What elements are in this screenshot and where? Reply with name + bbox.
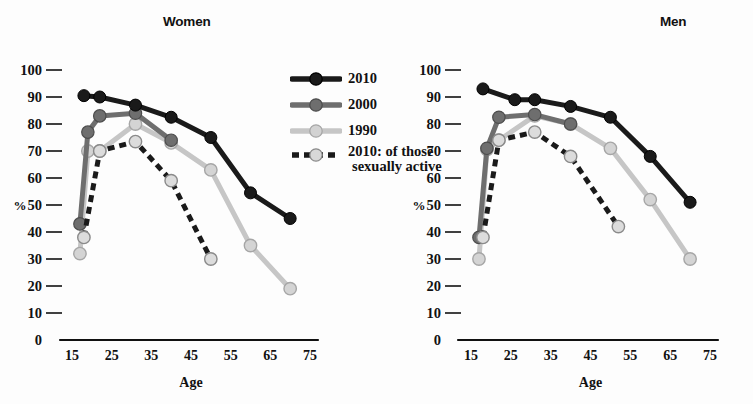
y-tick-label: 50 [28,197,43,213]
x-tick-label: 45 [184,348,198,363]
y-tick-label: 20 [427,278,442,294]
y-tick-label: 90 [427,89,442,105]
y-tick-label: 0 [434,332,441,348]
series-2000 [473,108,577,243]
plot-area-men: 1009080706050403020100%15253545556575Age [400,0,753,404]
legend-label-1990: 1990 [348,123,377,138]
y-tick-label: 60 [28,170,43,186]
y-tick-label: 50 [427,197,442,213]
y-tick-label: 40 [427,224,442,240]
x-axis-caption: Age [179,375,202,390]
y-tick-label: 20 [28,278,43,294]
legend-swatch-2000 [290,97,342,113]
legend-label-2010: 2010 [348,71,377,86]
y-axis-caption: % [413,198,426,213]
y-tick-label: 30 [427,251,442,267]
y-tick-label: 90 [28,89,43,105]
legend-swatch-2010-sexually-active [290,147,342,163]
x-tick-label: 75 [303,348,317,363]
plot-area-women: 1009080706050403020100%15253545556575Age [0,0,390,404]
x-tick-label: 35 [544,348,558,363]
x-tick-label: 25 [105,348,119,363]
x-axis-caption: Age [579,375,602,390]
y-tick-label: 80 [28,116,43,132]
legend-label-2000: 2000 [348,97,377,112]
chart-figure: Women 1009080706050403020100%15253545556… [0,0,753,404]
y-tick-label: 60 [427,170,442,186]
legend-swatch-1990 [290,123,342,139]
y-tick-label: 10 [28,305,43,321]
y-tick-label: 100 [419,62,441,78]
x-tick-label: 45 [584,348,598,363]
y-tick-label: 70 [28,143,43,159]
x-tick-label: 65 [263,348,277,363]
y-tick-label: 80 [427,116,442,132]
x-tick-label: 55 [224,348,238,363]
y-tick-label: 40 [28,224,43,240]
y-tick-label: 30 [28,251,43,267]
series-2010-of-those-sexually-active [78,135,217,265]
x-tick-label: 65 [663,348,677,363]
series-1990 [473,110,697,266]
x-tick-label: 55 [623,348,637,363]
legend-swatch-2010 [290,71,342,87]
y-tick-label: 10 [427,305,442,321]
x-tick-label: 35 [144,348,158,363]
y-tick-label: 100 [20,62,42,78]
chart-panel-women: Women 1009080706050403020100%15253545556… [0,0,390,404]
x-tick-label: 75 [703,348,717,363]
series-2010 [477,83,696,208]
y-tick-label: 70 [427,143,442,159]
y-axis-caption: % [14,198,27,213]
x-tick-label: 15 [65,348,79,363]
x-tick-label: 25 [504,348,518,363]
chart-panel-men: Men 1009080706050403020100%1525354555657… [400,0,753,404]
series-2010 [78,90,296,225]
y-tick-label: 0 [35,332,42,348]
x-tick-label: 15 [464,348,478,363]
